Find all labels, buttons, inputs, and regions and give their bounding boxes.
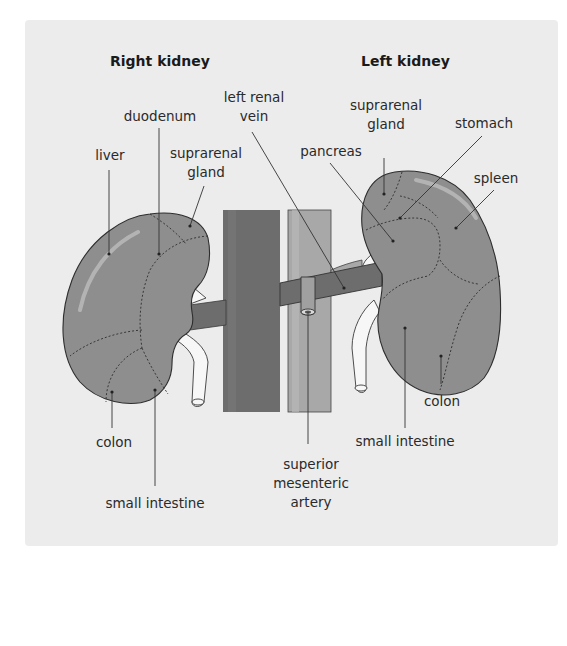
right-kidney xyxy=(63,213,210,403)
superior-mesenteric-artery xyxy=(301,277,315,315)
label-stomach: stomach xyxy=(455,115,513,131)
label-left-suprarenal-line1: suprarenal xyxy=(350,97,422,113)
label-left-renal-vein-line2: vein xyxy=(240,108,269,124)
label-liver: liver xyxy=(95,147,125,163)
title-right-kidney: Right kidney xyxy=(110,53,210,69)
label-sma-line1: superior xyxy=(283,456,339,472)
title-left-kidney: Left kidney xyxy=(361,53,450,69)
label-right-colon: colon xyxy=(96,434,132,450)
label-sma-line2: mesenteric xyxy=(273,475,349,491)
label-right-suprarenal-line1: suprarenal xyxy=(170,145,242,161)
aorta xyxy=(288,210,362,412)
label-left-renal-vein-line1: left renal xyxy=(224,89,284,105)
label-left-colon: colon xyxy=(424,393,460,409)
label-right-small-intestine: small intestine xyxy=(105,495,204,511)
label-right-suprarenal-line2: gland xyxy=(187,164,225,180)
label-left-suprarenal-line2: gland xyxy=(367,116,405,132)
label-duodenum: duodenum xyxy=(124,108,197,124)
label-spleen: spleen xyxy=(474,170,519,186)
label-pancreas: pancreas xyxy=(300,143,362,159)
label-sma-line3: artery xyxy=(291,494,332,510)
kidney-relations-diagram: Right kidney Left kidney xyxy=(0,0,567,646)
label-left-small-intestine: small intestine xyxy=(355,433,454,449)
